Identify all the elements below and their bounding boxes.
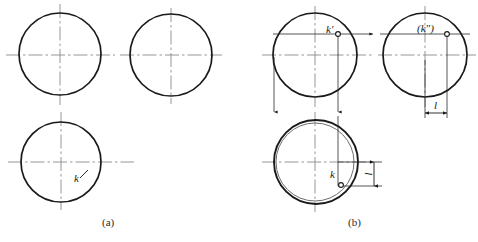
- dimension-label-l-vertical: l: [362, 172, 374, 175]
- point-label-k-front-view-b: k': [326, 23, 333, 35]
- caption-panel-a: (a): [102, 216, 114, 228]
- point-label-k-side-view-b: (k″): [417, 22, 434, 34]
- panel-a-front-view: [6, 4, 115, 105]
- figure-root: k k' (k″) k l l (a) (b): [0, 0, 478, 242]
- panel-b-top-view: [262, 112, 382, 212]
- point-label-k-top-view-a: k: [74, 172, 79, 184]
- caption-panel-b: (b): [348, 216, 361, 228]
- panel-a-top-view: [8, 112, 134, 210]
- point-k-top-marker: [339, 183, 344, 188]
- point-k-side-marker: [445, 32, 450, 37]
- panel-a-side-view: [120, 8, 222, 104]
- k0-leader-line: [80, 170, 88, 178]
- panel-b-group: [262, 6, 476, 212]
- dimension-label-l-horizontal: l: [434, 99, 437, 111]
- technical-drawing-canvas: [0, 0, 478, 242]
- panel-b-front-view: [262, 6, 373, 112]
- point-label-k-top-view-b: k: [330, 168, 335, 180]
- point-k-front-marker: [336, 32, 341, 37]
- panel-a-group: [6, 4, 222, 210]
